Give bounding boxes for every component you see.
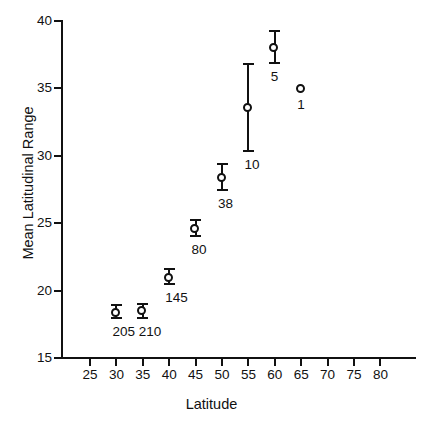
sample-size-label-lat-65: 1 [297,98,305,112]
error-bar-cap-lower [190,235,201,237]
sample-size-label-lat-55: 10 [244,158,259,172]
y-tick-35 [54,87,61,89]
x-axis-line [61,357,416,359]
x-tick-50 [221,359,223,366]
y-tick-40 [54,20,61,22]
error-bar-cap-lower [217,189,228,191]
y-tick-label-40: 40 [28,14,52,28]
y-axis-line [61,20,63,359]
error-bar-cap-upper [269,30,280,32]
sample-size-label-lat-30: 205 [112,325,135,339]
marker-open-circle [217,173,226,182]
sample-size-label-lat-45: 80 [192,243,207,257]
error-bar-cap-upper [190,219,201,221]
marker-open-circle [190,224,199,233]
y-tick-label-15: 15 [28,351,52,365]
sample-size-label-lat-35: 210 [139,325,162,339]
marker-open-circle [296,84,305,93]
marker-open-circle [164,273,173,282]
sample-size-label-lat-60: 5 [271,70,279,84]
x-tick-35 [142,359,144,366]
sample-size-label-lat-50: 38 [218,197,233,211]
y-tick-20 [54,290,61,292]
y-tick-30 [54,155,61,157]
y-tick-25 [54,222,61,224]
error-bar-cap-upper [217,163,228,165]
error-bar-cap-lower [269,62,280,64]
x-tick-45 [195,359,197,366]
x-tick-30 [115,359,117,366]
y-axis-title: Mean Latitudinal Range [20,63,36,303]
error-bar-cap-lower [137,317,148,319]
x-tick-75 [353,359,355,366]
marker-open-circle [111,308,120,317]
error-bar-cap-upper [137,303,148,305]
marker-open-circle [269,43,278,52]
x-tick-65 [300,359,302,366]
x-tick-40 [168,359,170,366]
x-tick-label-80: 80 [365,368,395,382]
error-bar-cap-lower [243,150,254,152]
marker-open-circle [243,103,252,112]
x-tick-55 [247,359,249,366]
x-tick-25 [89,359,91,366]
error-bar-cap-lower [111,317,122,319]
marker-open-circle [137,306,146,315]
scatter-chart-figure: 152025303540 253035404550556065707580 20… [0,0,423,429]
error-bar-cap-upper [111,304,122,306]
error-bar-cap-upper [243,63,254,65]
x-tick-70 [327,359,329,366]
error-bar-cap-upper [164,268,175,270]
x-tick-80 [379,359,381,366]
y-tick-15 [54,357,61,359]
error-bar-cap-lower [164,283,175,285]
x-axis-title: Latitude [0,396,423,412]
x-tick-60 [274,359,276,366]
sample-size-label-lat-40: 145 [165,291,188,305]
